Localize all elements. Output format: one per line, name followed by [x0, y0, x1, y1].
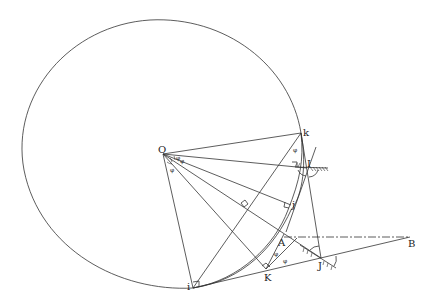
label-k: k	[303, 127, 310, 138]
phi-label-O-3: φ	[180, 157, 184, 165]
angle-arc-J-left	[310, 246, 319, 250]
line-O-i	[163, 154, 193, 288]
phi-label-K-2: φ	[283, 257, 287, 265]
label-A: A	[277, 237, 286, 248]
label-K: K	[264, 272, 272, 283]
phi-label-O-2: φ	[170, 166, 174, 174]
label-J: J	[317, 260, 322, 271]
line-i-k	[193, 133, 301, 288]
phi-label-k: φ	[293, 146, 297, 154]
geometry-diagram: φ φ φ φ φ φ O k I j A B K J i	[0, 0, 437, 308]
line-k-J	[301, 133, 321, 258]
label-i: i	[187, 281, 190, 292]
label-B: B	[408, 238, 415, 249]
label-j: j	[291, 199, 295, 210]
angle-arc-J-right	[334, 256, 336, 266]
label-I: I	[307, 158, 311, 169]
angle-arc-I-right	[309, 170, 318, 177]
line-I-slope	[286, 147, 316, 232]
line-O-k	[163, 133, 301, 154]
line-O-I	[163, 154, 307, 168]
label-O: O	[158, 144, 166, 155]
mirror-I	[295, 167, 328, 168]
line-i-B	[193, 237, 410, 288]
phi-label-K-1: φ	[274, 250, 278, 258]
